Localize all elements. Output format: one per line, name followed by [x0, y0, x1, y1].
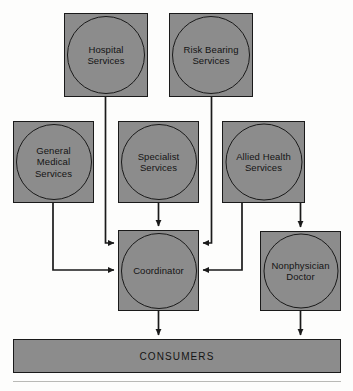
edge-allied-health-to-coordinator: [203, 203, 242, 270]
consumers-bar[interactable]: CONSUMERS: [13, 339, 341, 373]
node-allied-health-services[interactable]: Allied Health Services: [222, 121, 305, 203]
consumers-label: CONSUMERS: [140, 351, 215, 362]
node-label: Allied Health Services: [234, 151, 293, 174]
edge-hospital-to-coordinator: [106, 97, 115, 243]
node-label: Nonphysician Doctor: [269, 260, 331, 283]
node-label: General Medical Services: [33, 145, 74, 180]
bottom-rule-divider: [13, 381, 341, 382]
node-hospital-services[interactable]: Hospital Services: [64, 13, 148, 97]
diagram-canvas: Hospital Services Risk Bearing Services …: [0, 0, 353, 391]
node-label: Coordinator: [131, 265, 186, 277]
node-nonphysician-doctor[interactable]: Nonphysician Doctor: [260, 231, 341, 311]
node-risk-bearing-services[interactable]: Risk Bearing Services: [169, 13, 253, 97]
node-general-medical-services[interactable]: General Medical Services: [13, 121, 94, 203]
edge-risk-bearing-to-coordinator: [203, 97, 212, 243]
node-label: Risk Bearing Services: [181, 44, 240, 67]
node-specialist-services[interactable]: Specialist Services: [118, 121, 199, 203]
node-coordinator[interactable]: Coordinator: [118, 230, 199, 311]
node-label: Specialist Services: [136, 151, 182, 174]
node-label: Hospital Services: [85, 44, 126, 67]
